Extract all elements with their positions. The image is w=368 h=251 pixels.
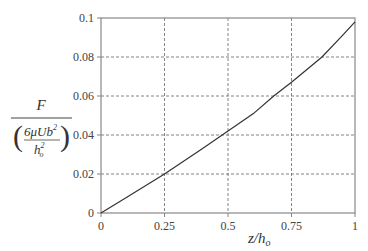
y-tick-label: 0.06 bbox=[73, 89, 94, 103]
x-axis-label: z/ho bbox=[247, 230, 271, 248]
svg-text:h2o: h2o bbox=[34, 141, 45, 159]
y-tick-label: 0 bbox=[88, 206, 94, 220]
x-tick-label: 0 bbox=[98, 219, 104, 233]
svg-text:6μUb2: 6μUb2 bbox=[24, 123, 57, 139]
y-tick-label: 0.04 bbox=[73, 128, 94, 142]
x-tick-label: 0.5 bbox=[221, 219, 236, 233]
y-tick-label: 0.02 bbox=[73, 167, 94, 181]
y-tick-label: 0.08 bbox=[73, 50, 94, 64]
axes bbox=[97, 18, 355, 217]
x-tick-label: 0.75 bbox=[281, 219, 302, 233]
y-axis-label: F ( ) 6μUb2 h2o bbox=[11, 97, 72, 159]
x-tick-label: 1 bbox=[352, 219, 358, 233]
line-chart: 00.250.50.75100.020.040.060.080.1 z/ho F… bbox=[0, 0, 368, 251]
grid-lines bbox=[101, 18, 355, 213]
y-tick-label: 0.1 bbox=[79, 11, 94, 25]
x-tick-label: 0.25 bbox=[154, 219, 175, 233]
svg-text:F: F bbox=[35, 97, 46, 113]
svg-text:(: ( bbox=[13, 119, 23, 153]
svg-text:): ) bbox=[60, 119, 70, 153]
tick-labels: 00.250.50.75100.020.040.060.080.1 bbox=[73, 11, 358, 233]
